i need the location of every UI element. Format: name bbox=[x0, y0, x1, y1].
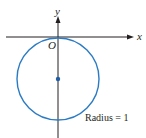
x-axis-label: x bbox=[136, 30, 142, 42]
circle-diagram: x y O Radius = 1 bbox=[0, 0, 146, 138]
x-axis-arrow-icon bbox=[127, 35, 134, 40]
y-axis-arrow-icon bbox=[56, 16, 61, 23]
origin-label: O bbox=[48, 39, 56, 51]
radius-annotation: Radius = 1 bbox=[85, 112, 128, 123]
y-axis-label: y bbox=[54, 5, 60, 17]
center-point bbox=[56, 77, 60, 81]
